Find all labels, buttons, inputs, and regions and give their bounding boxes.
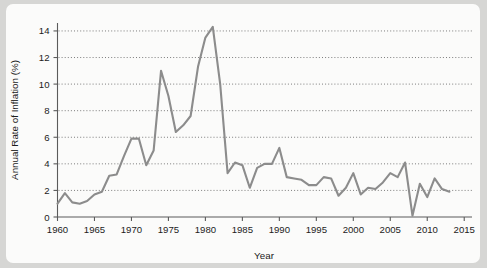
x-tick-label-1985: 1985 bbox=[232, 224, 253, 235]
axes-group bbox=[58, 23, 473, 217]
y-tick-labels-group: 02468101214 bbox=[39, 25, 50, 222]
x-axis-title: Year bbox=[254, 250, 275, 261]
x-tick-label-1995: 1995 bbox=[306, 224, 327, 235]
chart-svg: 02468101214 1960196519701975198019851990… bbox=[0, 0, 487, 268]
y-axis-title: Annual Rate of Inflation (%) bbox=[9, 60, 20, 180]
y-tick-label-6: 6 bbox=[44, 132, 49, 143]
x-tick-label-2015: 2015 bbox=[454, 224, 475, 235]
x-tick-label-2010: 2010 bbox=[417, 224, 438, 235]
x-tick-label-1990: 1990 bbox=[269, 224, 290, 235]
inflation-chart-figure: 02468101214 1960196519701975198019851990… bbox=[0, 0, 487, 268]
inflation-rate-series-line bbox=[58, 27, 450, 216]
x-tick-label-2005: 2005 bbox=[380, 224, 401, 235]
y-tick-label-8: 8 bbox=[44, 105, 49, 116]
y-tick-label-14: 14 bbox=[39, 25, 50, 36]
x-ticks-group bbox=[58, 217, 465, 221]
y-tick-label-4: 4 bbox=[44, 158, 50, 169]
x-tick-label-2000: 2000 bbox=[343, 224, 364, 235]
y-tick-label-2: 2 bbox=[44, 185, 49, 196]
x-tick-label-1960: 1960 bbox=[47, 224, 68, 235]
x-tick-label-1970: 1970 bbox=[121, 224, 142, 235]
y-tick-label-12: 12 bbox=[39, 52, 50, 63]
x-tick-labels-group: 1960196519701975198019851990199520002005… bbox=[47, 224, 475, 235]
x-tick-label-1980: 1980 bbox=[195, 224, 216, 235]
y-tick-label-0: 0 bbox=[44, 212, 49, 223]
y-tick-label-10: 10 bbox=[39, 79, 50, 90]
x-tick-label-1965: 1965 bbox=[84, 224, 105, 235]
x-tick-label-1975: 1975 bbox=[158, 224, 179, 235]
y-ticks-group bbox=[54, 31, 58, 217]
chart-plot-area: 02468101214 1960196519701975198019851990… bbox=[0, 0, 487, 268]
